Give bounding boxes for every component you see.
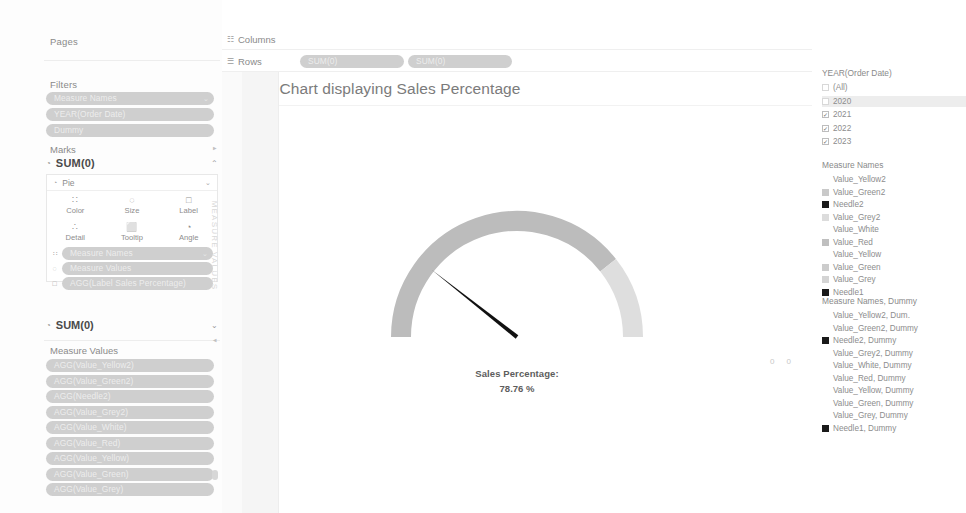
marks-pill[interactable]: AGG(Label Sales Percentage): [62, 277, 213, 290]
rows-pill[interactable]: SUM(0): [300, 55, 404, 68]
marks-pill-label: AGG(Label Sales Percentage): [70, 278, 186, 288]
filter-checkbox-row[interactable]: 2020: [822, 96, 966, 107]
legend-item[interactable]: Value_Yellow, Dummy: [822, 385, 966, 396]
pages-divider: [44, 60, 220, 61]
canvas-left-margin: [222, 72, 242, 513]
checkbox-icon[interactable]: [822, 98, 829, 105]
filter-pill[interactable]: YEAR(Order Date): [46, 108, 214, 121]
year-filter-items: (All) 2020 ✓ 2021 ✓ 2022 ✓ 2023: [822, 82, 966, 147]
legend-item[interactable]: Value_Yellow: [822, 249, 966, 260]
filter-pill[interactable]: Dummy: [46, 124, 214, 137]
legend-item[interactable]: Value_Green2: [822, 187, 966, 198]
marks-pill-list: ∷ Measure Names ⌄ ◌ Measure Values □: [47, 245, 217, 290]
checkbox-checked-icon[interactable]: ✓: [822, 138, 829, 145]
size-button[interactable]: ◌ Size: [104, 191, 161, 218]
filter-checkbox-row[interactable]: (All): [822, 82, 966, 93]
pages-shelf[interactable]: Pages: [0, 0, 222, 72]
filter-option-label: 2021: [833, 110, 851, 119]
filters-label: Filters: [50, 79, 77, 90]
measure-value-pill[interactable]: AGG(Needle2): [46, 390, 214, 403]
sidebar-scrollbar[interactable]: [212, 470, 218, 480]
filter-pill[interactable]: Measure Names ⌄: [46, 92, 214, 105]
color-icon: ∷: [72, 195, 78, 205]
detail-button[interactable]: ∴ Detail: [47, 218, 104, 245]
scroll-up-arrow-icon[interactable]: ▲: [212, 145, 218, 152]
checkbox-icon[interactable]: [822, 84, 829, 91]
legend-item[interactable]: Value_Grey2, Dummy: [822, 348, 966, 359]
detail-label: Detail: [66, 233, 85, 242]
legend-item-label: Value_Yellow2, Dum.: [833, 311, 910, 320]
legend-item[interactable]: Needle2: [822, 199, 966, 210]
legend-item[interactable]: Value_Green, Dummy: [822, 398, 966, 409]
marks-pill-label: Measure Values: [70, 263, 131, 273]
filter-checkbox-row[interactable]: ✓ 2021: [822, 109, 966, 120]
label-icon: □: [50, 280, 59, 287]
mark-type-selector[interactable]: ◔ Pie ⌄: [47, 175, 217, 191]
measure-value-pill[interactable]: AGG(Value_Green2): [46, 375, 214, 388]
legend-item[interactable]: Value_Grey: [822, 274, 966, 285]
measure-values-label: Measure Values: [50, 345, 118, 356]
measure-value-pill[interactable]: AGG(Value_Yellow): [46, 452, 214, 465]
measure-value-pill[interactable]: AGG(Value_Grey2): [46, 406, 214, 419]
rows-pill[interactable]: SUM(0): [408, 55, 512, 68]
measure-value-pill[interactable]: AGG(Value_Yellow2): [46, 359, 214, 372]
measure-value-pill[interactable]: AGG(Value_White): [46, 421, 214, 434]
pill-label: AGG(Value_Grey): [54, 484, 123, 494]
legend-item[interactable]: Value_Green: [822, 262, 966, 273]
legend-item[interactable]: Value_Grey2: [822, 212, 966, 223]
label-icon: □: [186, 195, 191, 205]
marks-card-2-divider: [44, 340, 220, 341]
gauge-chart: Sales Percentage: 78.76 %: [222, 100, 812, 430]
legend-color-swatch: [822, 276, 829, 283]
measure-values-pill-list: AGG(Value_Yellow2) AGG(Value_Green2) AGG…: [46, 359, 214, 496]
angle-label: Angle: [179, 233, 198, 242]
legend-item[interactable]: Value_Red: [822, 237, 966, 248]
marks-pill[interactable]: Measure Names ⌄: [62, 247, 213, 260]
legend-item-label: Value_Grey, Dummy: [833, 411, 908, 420]
scroll-down-arrow-icon[interactable]: ▼: [212, 337, 218, 344]
rows-shelf[interactable]: ☰ Rows SUM(0) SUM(0): [222, 50, 812, 72]
year-filter-title: YEAR(Order Date): [822, 68, 966, 78]
legend-item-label: Value_Green2, Dummy: [833, 324, 918, 333]
legend-item-label: Needle2: [833, 200, 864, 209]
filter-checkbox-row[interactable]: ✓ 2022: [822, 123, 966, 134]
marks-pill[interactable]: Measure Values: [62, 262, 213, 275]
legend-item[interactable]: Value_Green2, Dummy: [822, 323, 966, 334]
legend-color-swatch: [822, 201, 829, 208]
pill-label: AGG(Needle2): [54, 391, 111, 401]
marks-pill-row: ∷ Measure Names ⌄: [50, 247, 213, 260]
marks-card-2-header[interactable]: ◔ SUM(0) ⌄: [46, 318, 218, 332]
tooltip-icon: ⬜: [126, 222, 137, 232]
tooltip-button[interactable]: ⬜ Tooltip: [104, 218, 161, 245]
checkbox-checked-icon[interactable]: ✓: [822, 125, 829, 132]
color-button[interactable]: ∷ Color: [47, 191, 104, 218]
checkbox-checked-icon[interactable]: ✓: [822, 111, 829, 118]
measure-value-pill[interactable]: AGG(Value_Grey): [46, 483, 214, 496]
tooltip-label: Tooltip: [121, 233, 143, 242]
left-sidebar: Pages Filters Measure Names ⌄ YEAR(Order…: [0, 0, 222, 513]
viz-canvas: Gauge Chart displaying Sales Percentage …: [222, 72, 812, 513]
legend-item[interactable]: Value_White, Dummy: [822, 360, 966, 371]
marks-card-header[interactable]: ◔ SUM(0) ⌃: [46, 156, 218, 170]
measure-value-pill[interactable]: AGG(Value_Green): [46, 468, 214, 481]
mark-type-label: Pie: [62, 178, 74, 188]
legend-item[interactable]: Value_Yellow2, Dum.: [822, 310, 966, 321]
columns-label: Columns: [238, 34, 300, 45]
gauge-filled-arc: [401, 221, 608, 337]
gauge-remainder-arc: [608, 265, 633, 337]
year-filter-card: YEAR(Order Date) (All) 2020 ✓ 2021 ✓ 202…: [812, 68, 966, 147]
chevron-down-icon[interactable]: ⌄: [203, 92, 209, 105]
measure-value-pill[interactable]: AGG(Value_Red): [46, 437, 214, 450]
pill-label: AGG(Value_Yellow): [54, 453, 129, 463]
size-label: Size: [125, 206, 140, 215]
columns-shelf[interactable]: ☷ Columns: [222, 28, 812, 50]
legend-item[interactable]: Value_Red, Dummy: [822, 373, 966, 384]
legend-item[interactable]: Value_Yellow2: [822, 174, 966, 185]
legend-item[interactable]: Needle2, Dummy: [822, 335, 966, 346]
measure-names-legend-items: Value_Yellow2Value_Green2Needle2Value_Gr…: [822, 174, 966, 298]
legend-item[interactable]: Value_Grey, Dummy: [822, 410, 966, 421]
filter-checkbox-row[interactable]: ✓ 2023: [822, 136, 966, 147]
legend-item[interactable]: Needle1, Dummy: [822, 423, 966, 434]
legend-item[interactable]: Value_White: [822, 224, 966, 235]
measure-names-legend: Measure Names Value_Yellow2Value_Green2N…: [812, 160, 966, 298]
